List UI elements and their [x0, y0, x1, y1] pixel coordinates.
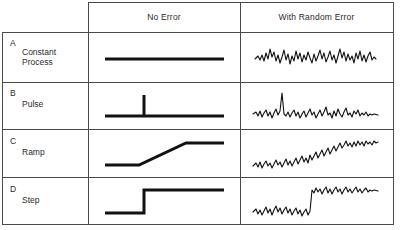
panel-constant-process-with-random-error	[241, 33, 393, 82]
row-label-constant-process: Constant Process	[22, 47, 56, 67]
row-letter-c: C	[10, 136, 16, 146]
row-letter-b: B	[10, 88, 16, 98]
row-letter-a: A	[10, 38, 16, 48]
row-letter-d: D	[10, 184, 16, 194]
grid-line-table-bottom	[2, 224, 394, 225]
grid-line-right-border	[393, 2, 394, 225]
panel-pulse-with-random-error	[241, 83, 393, 129]
row-label-pulse: Pulse	[22, 99, 43, 109]
row-label-ramp: Ramp	[22, 147, 45, 157]
column-header-no-error: No Error	[88, 12, 240, 22]
signal-pattern-table: No Error With Random Error A Constant Pr…	[0, 0, 403, 230]
panel-pulse-no-error	[89, 83, 240, 129]
panel-ramp-with-random-error	[241, 130, 393, 177]
column-header-with-random-error: With Random Error	[240, 12, 393, 22]
grid-line-left-border	[2, 32, 3, 225]
row-label-step: Step	[22, 195, 40, 205]
panel-ramp-no-error	[89, 130, 240, 177]
panel-constant-process-no-error	[89, 33, 240, 82]
panel-step-no-error	[89, 178, 240, 224]
panel-step-with-random-error	[241, 178, 393, 224]
grid-line-header-top	[88, 2, 394, 3]
